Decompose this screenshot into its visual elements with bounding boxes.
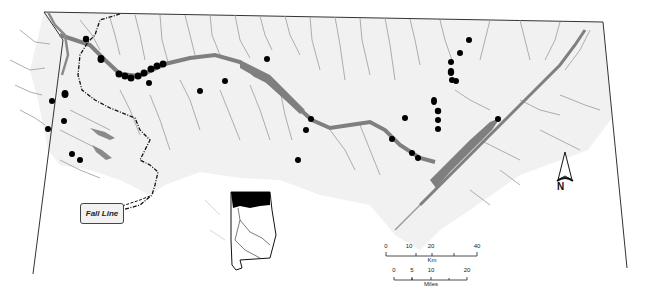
fall-line-label: Fall Line xyxy=(80,203,124,224)
scale-miles-unit: Miles xyxy=(424,281,438,287)
scale-km-tick-20: 20 xyxy=(428,243,435,249)
scale-miles-tick-5: 5 xyxy=(410,267,413,273)
scale-km-tick-0: 0 xyxy=(384,243,387,249)
scale-miles-tick-10: 10 xyxy=(428,267,435,273)
scale-bar-miles xyxy=(394,277,467,280)
inset-alabama-map xyxy=(205,192,276,270)
scale-km-unit: Km xyxy=(428,257,437,263)
scale-bar-km xyxy=(386,252,477,256)
scale-miles-tick-20: 20 xyxy=(464,267,471,273)
map-canvas xyxy=(0,0,649,296)
scale-km-tick-40: 40 xyxy=(474,243,481,249)
scale-km-tick-10: 10 xyxy=(406,243,413,249)
scale-miles-tick-0: 0 xyxy=(392,267,395,273)
north-arrow-label: N xyxy=(557,181,564,192)
